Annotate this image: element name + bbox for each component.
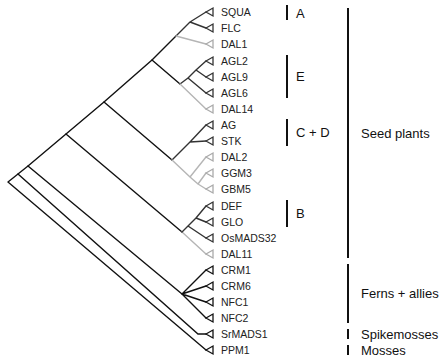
tip-triangle-icon [206,24,213,32]
tip-triangle-icon [206,105,213,113]
tip-label: DAL2 [221,151,247,163]
tip-label: GLO [221,216,243,228]
branch-ae [152,36,180,84]
tip-label: GGM3 [221,167,252,179]
tip-triangle-icon [206,73,213,81]
tip-triangle-icon [206,185,213,193]
tip-triangle-icon [206,57,213,65]
tip-label: NFC2 [221,312,248,324]
tip-triangle-icon [206,234,213,242]
clade-bracket [286,200,288,227]
tip-label: DEF [221,200,242,212]
tip-label: SrMADS1 [221,328,268,340]
tip-label: DAL14 [221,103,253,115]
tip-label: SQUA [221,6,251,18]
branch-n2 [18,166,206,334]
clade-label: C + D [296,125,330,140]
branch-dal2-light [172,157,206,189]
branch-ferns [182,270,206,318]
tip-label: STK [221,135,241,147]
branch-b [182,206,206,238]
group-bracket [347,329,349,339]
clade-bracket [286,5,288,20]
tip-triangle-icon [206,89,213,97]
group-bracket [347,345,349,355]
tip-triangle-icon [206,40,213,48]
tip-triangle-icon [206,121,213,129]
tip-label: AG [221,119,236,131]
tip-triangle-icon [206,314,213,322]
tip-triangle-icon [206,8,213,16]
tip-label: FLC [221,22,241,34]
branch-a-light [176,36,206,44]
tip-label: DAL1 [221,38,247,50]
tip-label: NFC1 [221,296,248,308]
tip-triangle-icon [206,218,213,226]
clade-bracket [286,119,288,146]
group-label: Mosses [361,343,406,358]
tip-label: PPM1 [221,344,250,356]
tip-triangle-icon [206,282,213,290]
tip-label: GBM5 [221,183,251,195]
group-label: Spikemosses [361,327,438,342]
group-label: Ferns + allies [361,286,439,301]
tip-triangle-icon [206,153,213,161]
clade-label: A [296,6,305,21]
branch-e-light [180,84,206,109]
tip-label: OsMADS32 [221,232,276,244]
branch-a [176,12,206,36]
tip-triangle-icon [206,298,213,306]
tip-label: AGL9 [221,71,248,83]
tip-triangle-icon [206,169,213,177]
group-bracket [347,264,349,323]
tip-triangle-icon [206,202,213,210]
branch-n3 [28,134,182,294]
group-bracket [347,8,349,258]
clade-label: B [296,206,305,221]
clade-bracket [286,55,288,98]
branch-root [8,174,206,350]
tip-label: AGL6 [221,87,248,99]
tip-triangle-icon [206,266,213,274]
tip-label: AGL2 [221,55,248,67]
tip-markers [206,8,213,354]
branch-mid [104,60,172,160]
tip-label: DAL11 [221,248,252,260]
tip-triangle-icon [206,346,213,354]
tip-triangle-icon [206,250,213,258]
clade-label: E [296,69,305,84]
tip-triangle-icon [206,137,213,145]
branch-cd [172,125,206,160]
tip-label: CRM6 [221,280,251,292]
tip-label: CRM1 [221,264,251,276]
tip-triangle-icon [206,330,213,338]
group-label: Seed plants [361,126,430,141]
